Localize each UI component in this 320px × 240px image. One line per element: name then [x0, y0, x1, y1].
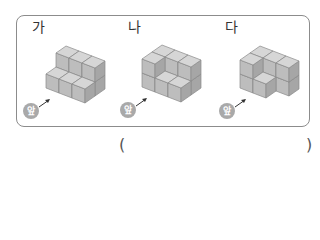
front-badge-da: 앞 [219, 103, 235, 119]
front-badge-na: 앞 [120, 102, 136, 118]
answer-open-paren: ( [119, 136, 125, 154]
front-badge-ga: 앞 [23, 103, 39, 119]
answer-field[interactable] [128, 136, 306, 154]
answer-close-paren: ) [306, 136, 312, 154]
